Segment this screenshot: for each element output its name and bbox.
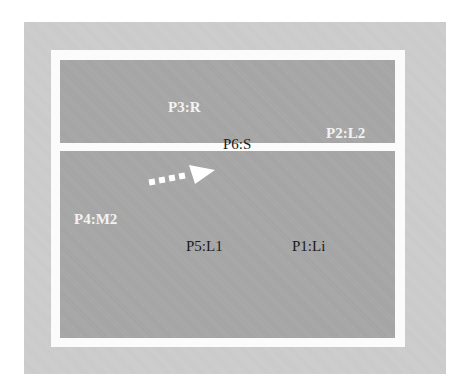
- lower-region: [60, 151, 395, 338]
- label-p3: P3:R: [168, 99, 201, 115]
- label-p6: P6:S: [223, 136, 251, 152]
- label-p2: P2:L2: [326, 125, 365, 141]
- label-p5: P5:L1: [186, 238, 223, 254]
- label-p1: P1:Li: [292, 238, 325, 254]
- dotted-arrow-icon: [147, 162, 217, 188]
- label-p4: P4:M2: [74, 211, 117, 227]
